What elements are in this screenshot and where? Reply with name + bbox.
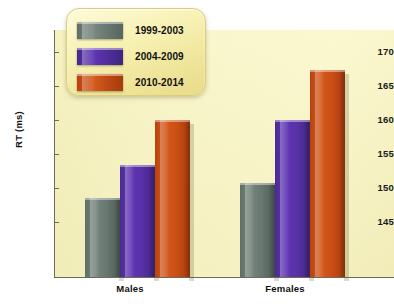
legend-swatch-icon [77,74,123,91]
chart-legend: 1999-2003 2004-2009 2010-2014 [66,8,206,96]
x-group-label-females: Females [247,283,323,294]
legend-label: 1999-2003 [135,25,184,36]
x-axis-line [54,277,394,278]
x-group-label-males: Males [92,283,168,294]
legend-label: 2010-2014 [135,77,184,88]
legend-swatch-icon [77,22,123,39]
bar-females-2010-2014 [310,70,345,277]
bar-males-1999-2003 [85,198,120,277]
legend-item-2010-2014: 2010-2014 [77,69,197,95]
bar-males-2010-2014 [155,120,190,277]
legend-item-2004-2009: 2004-2009 [77,43,197,69]
y-axis-title: RT (ms) [13,90,24,170]
bar-males-2004-2009 [120,165,155,277]
legend-label: 2004-2009 [135,51,184,62]
legend-swatch-icon [77,48,123,65]
legend-item-1999-2003: 1999-2003 [77,17,197,43]
bar-females-1999-2003 [240,183,275,277]
chart-figure: 170 165 160 155 150 145 RT (ms) Males [0,0,394,306]
bar-females-2004-2009 [275,120,310,277]
